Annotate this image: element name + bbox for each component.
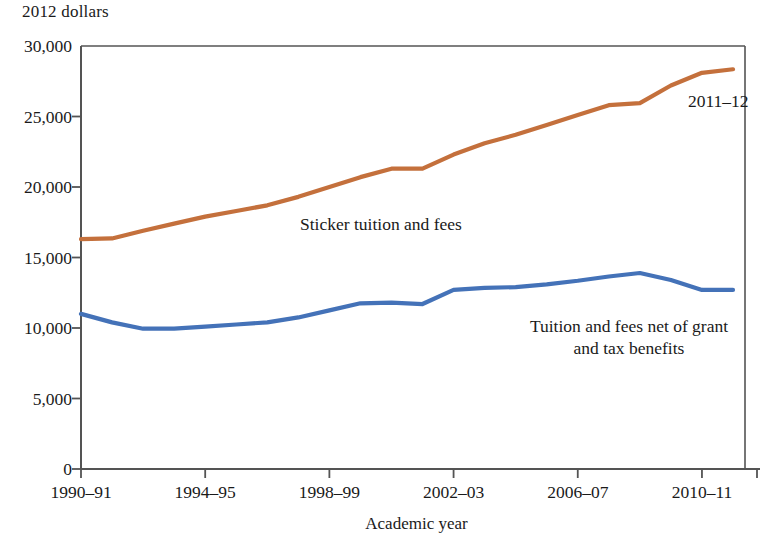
y-axis-tick-label: 30,000	[0, 36, 72, 57]
y-axis-tick-label: 0	[0, 459, 72, 480]
x-axis-title: Academic year	[0, 514, 773, 534]
line-chart: 2012 dollars 05,00010,00015,00020,00025,…	[0, 0, 773, 545]
x-axis-tick-label: 2002–03	[423, 482, 484, 503]
net-series-label-line1: Tuition and fees net of grant	[498, 315, 760, 337]
y-axis-tick-label: 25,000	[0, 106, 72, 127]
net-series-label: Tuition and fees net of grant and tax be…	[498, 315, 760, 360]
x-axis-tick-label: 1990–91	[50, 482, 111, 503]
y-axis-tick-label: 15,000	[0, 247, 72, 268]
sticker-series-label: Sticker tuition and fees	[300, 213, 462, 235]
net-series-label-line2: and tax benefits	[498, 337, 760, 359]
y-axis-tick-label: 10,000	[0, 318, 72, 339]
plot-area	[0, 0, 773, 545]
x-axis-tick-label: 1998–99	[299, 482, 360, 503]
last-year-annotation: 2011–12	[688, 90, 749, 112]
x-axis-tick-label: 2010–11	[672, 482, 733, 503]
x-axis-title-text: Academic year	[305, 514, 467, 533]
y-axis-tick-label: 5,000	[0, 388, 72, 409]
x-axis-tick-label: 2006–07	[547, 482, 608, 503]
y-axis-tick-labels: 05,00010,00015,00020,00025,00030,000	[0, 0, 72, 545]
y-axis-tick-label: 20,000	[0, 177, 72, 198]
x-axis-tick-label: 1994–95	[175, 482, 236, 503]
